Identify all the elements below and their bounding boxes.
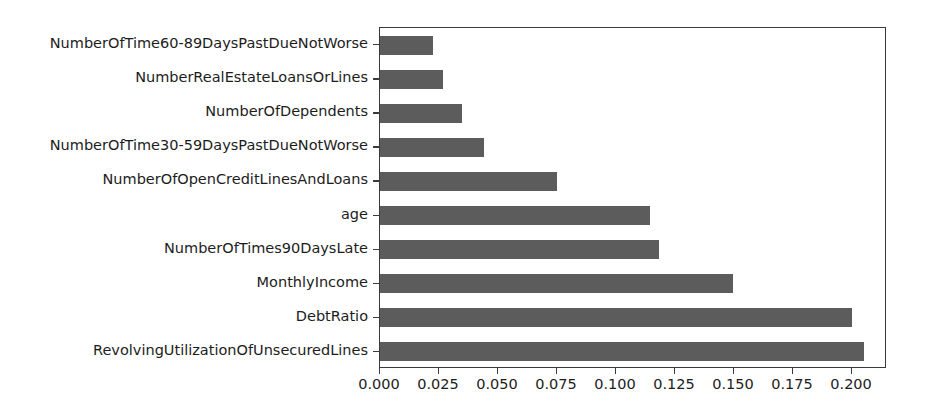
bar-fill xyxy=(380,308,852,327)
bar-5 xyxy=(380,206,650,225)
y-tick-label-4: NumberOfOpenCreditLinesAndLoans xyxy=(102,172,368,187)
bar-3 xyxy=(380,138,484,157)
bar-fill xyxy=(380,172,557,191)
y-tick-label-8: DebtRatio xyxy=(296,309,368,324)
bar-fill xyxy=(380,104,462,123)
y-tick-label-1: NumberRealEstateLoansOrLines xyxy=(135,70,368,85)
x-tick-mark-1 xyxy=(438,368,439,374)
bar-fill xyxy=(380,274,733,293)
bar-fill xyxy=(380,342,864,361)
y-tick-label-3: NumberOfTime30-59DaysPastDueNotWorse xyxy=(50,138,368,153)
y-tick-label-9: RevolvingUtilizationOfUnsecuredLines xyxy=(93,343,368,358)
bar-2 xyxy=(380,104,462,123)
x-tick-label-3: 0.075 xyxy=(535,377,577,392)
x-tick-label-1: 0.025 xyxy=(417,377,459,392)
x-tick-label-4: 0.100 xyxy=(594,377,636,392)
x-tick-mark-3 xyxy=(556,368,557,374)
bar-4 xyxy=(380,172,557,191)
bar-fill xyxy=(380,36,433,55)
bar-8 xyxy=(380,308,852,327)
bar-1 xyxy=(380,70,443,89)
bar-fill xyxy=(380,70,443,89)
x-tick-label-0: 0.000 xyxy=(358,377,400,392)
bar-9 xyxy=(380,342,864,361)
x-tick-label-7: 0.175 xyxy=(771,377,813,392)
feature-importance-bar-chart: NumberOfTime60-89DaysPastDueNotWorseNumb… xyxy=(0,0,925,411)
y-tick-label-2: NumberOfDependents xyxy=(205,104,368,119)
x-tick-mark-5 xyxy=(674,368,675,374)
x-tick-label-6: 0.150 xyxy=(712,377,754,392)
x-tick-mark-7 xyxy=(792,368,793,374)
x-tick-mark-0 xyxy=(379,368,380,374)
x-tick-mark-2 xyxy=(497,368,498,374)
x-tick-mark-4 xyxy=(615,368,616,374)
bar-7 xyxy=(380,274,733,293)
x-tick-mark-6 xyxy=(733,368,734,374)
y-tick-label-6: NumberOfTimes90DaysLate xyxy=(164,241,368,256)
y-tick-label-7: MonthlyIncome xyxy=(257,275,368,290)
bar-0 xyxy=(380,36,433,55)
bar-fill xyxy=(380,240,659,259)
x-tick-label-2: 0.050 xyxy=(476,377,518,392)
y-tick-label-5: age xyxy=(341,207,368,222)
plot-area xyxy=(379,27,886,368)
x-tick-label-5: 0.125 xyxy=(653,377,695,392)
y-tick-label-0: NumberOfTime60-89DaysPastDueNotWorse xyxy=(50,36,368,51)
bar-fill xyxy=(380,206,650,225)
x-tick-label-8: 0.200 xyxy=(830,377,872,392)
bar-6 xyxy=(380,240,659,259)
x-tick-mark-8 xyxy=(851,368,852,374)
bar-fill xyxy=(380,138,484,157)
